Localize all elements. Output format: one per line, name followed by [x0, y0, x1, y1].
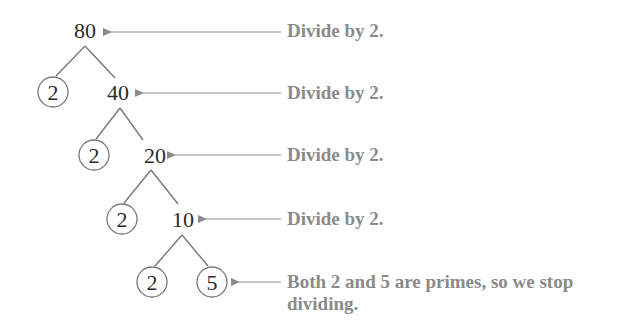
annotation-row5: Both 2 and 5 are primes, so we stop divi… — [287, 271, 617, 315]
annotation-row1: Divide by 2. — [287, 20, 384, 42]
node-prime-2-row5: 2 — [147, 270, 158, 295]
annotation-row4: Divide by 2. — [287, 208, 384, 230]
annotation-row3: Divide by 2. — [287, 144, 384, 166]
node-80: 80 — [74, 18, 96, 43]
node-20: 20 — [144, 143, 166, 168]
prime-circles — [38, 77, 227, 297]
node-prime-2-row4: 2 — [117, 207, 128, 232]
factor-tree-diagram: 80 2 40 2 20 2 10 2 5 Divide by 2. Divid… — [0, 0, 643, 332]
node-10: 10 — [172, 207, 194, 232]
node-prime-2-row2: 2 — [48, 80, 59, 105]
node-prime-5-row5: 5 — [207, 270, 218, 295]
node-prime-2-row3: 2 — [89, 143, 100, 168]
annotation-arrows — [111, 32, 281, 282]
node-40: 40 — [107, 80, 129, 105]
annotation-row2: Divide by 2. — [287, 82, 384, 104]
